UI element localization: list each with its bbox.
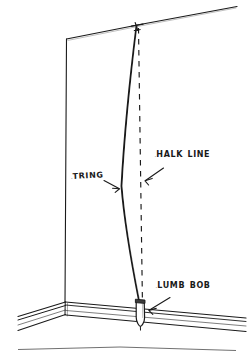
label-string: String <box>71 168 104 181</box>
hanging-string <box>122 26 141 303</box>
ceiling-line <box>67 7 238 40</box>
baseboard-molding <box>18 302 246 332</box>
label-plumb-bob: Plumb Bob <box>156 279 211 291</box>
baseboard-right-bottom <box>66 315 246 332</box>
baseboard-right-top <box>66 302 247 318</box>
string-arrow-icon <box>104 181 120 193</box>
baseboard-left-top <box>18 302 66 317</box>
baseboard-right-top2 <box>66 305 247 322</box>
wall-left-edge <box>65 39 67 302</box>
dashed-chalk-line <box>139 28 143 307</box>
image-bottom-border <box>18 347 236 351</box>
plumb-bob-arrow-icon <box>149 298 170 315</box>
ceiling-line-shadow <box>68 8 236 40</box>
chalk-line-arrow-icon <box>145 168 164 185</box>
illustration-canvas: Chalk Line String Plumb Bob <box>0 0 251 360</box>
plumb-bob-weight <box>135 299 145 330</box>
wall-face <box>65 7 237 303</box>
plumb-bob-diagram <box>0 0 251 360</box>
label-chalk-line: Chalk Line <box>155 148 210 160</box>
